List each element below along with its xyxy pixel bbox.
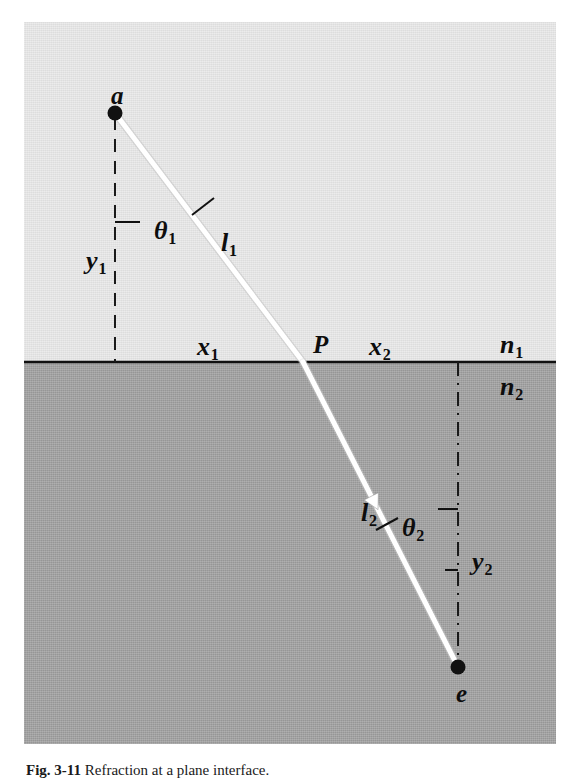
- label-y2-base: y: [472, 547, 484, 576]
- label-y2: y2: [472, 549, 492, 575]
- label-theta1: θ1: [154, 218, 176, 244]
- theta1-leader-ray: [192, 198, 214, 215]
- diagram-vector-layer: [24, 22, 556, 744]
- label-l1-subscript: 1: [229, 242, 237, 259]
- label-n2-base: n: [500, 372, 515, 401]
- label-theta2: θ2: [402, 515, 424, 541]
- label-n1-base: n: [500, 330, 515, 359]
- point-e-dot: [451, 660, 466, 675]
- label-x2-subscript: 2: [383, 346, 391, 363]
- label-n2-subscript: 2: [515, 386, 523, 403]
- label-n2: n2: [500, 374, 523, 400]
- label-y1-base: y: [86, 246, 98, 275]
- label-theta1-base: θ: [154, 216, 168, 245]
- incident-ray: [115, 113, 303, 362]
- label-l2-subscript: 2: [369, 512, 377, 529]
- point-label-P: P: [313, 332, 328, 357]
- label-n1: n1: [500, 332, 523, 358]
- label-x2-base: x: [369, 332, 382, 361]
- label-y1-subscript: 1: [98, 260, 106, 277]
- label-theta2-subscript: 2: [416, 527, 424, 544]
- label-x2: x2: [369, 334, 390, 360]
- label-n1-subscript: 1: [515, 344, 523, 361]
- label-x1-subscript: 1: [211, 346, 219, 363]
- label-l2-base: l: [361, 498, 368, 527]
- refracted-ray: [303, 362, 458, 667]
- point-label-a: a: [111, 83, 124, 108]
- label-y2-subscript: 2: [484, 561, 492, 578]
- label-l2: l2: [361, 500, 377, 526]
- refraction-figure: θ1θ2y1y2l1l2x1x2n1n2aPe Fig. 3-11 Refrac…: [0, 0, 579, 778]
- point-label-e: e: [456, 681, 467, 706]
- label-l1-base: l: [221, 228, 228, 257]
- figure-panel: θ1θ2y1y2l1l2x1x2n1n2aPe: [24, 22, 556, 744]
- caption-body: Refraction at a plane interface.: [85, 762, 269, 778]
- label-l1: l1: [221, 230, 237, 256]
- label-x1: x1: [197, 334, 218, 360]
- label-theta2-base: θ: [402, 513, 416, 542]
- figure-caption: Fig. 3-11 Refraction at a plane interfac…: [26, 762, 556, 778]
- label-x1-base: x: [197, 332, 210, 361]
- label-theta1-subscript: 1: [168, 230, 176, 247]
- label-y1: y1: [86, 248, 106, 274]
- caption-number: Fig. 3-11: [26, 762, 81, 778]
